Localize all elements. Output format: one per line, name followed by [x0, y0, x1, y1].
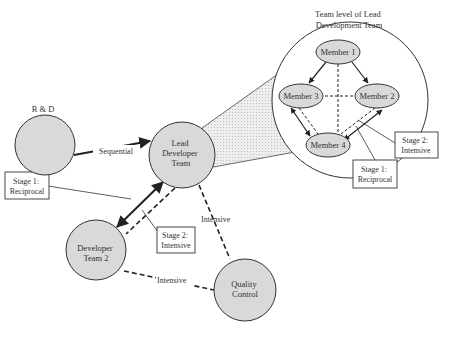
left-stage2-callout: Stage 2: Intensive — [142, 210, 195, 253]
lead-developer-team-node: Lead Developer Team — [149, 122, 215, 188]
left-stage1-callout: Stage 1: Reciprocal — [5, 172, 131, 199]
member-1-node: Member 1 — [316, 40, 360, 64]
svg-text:Stage 1: Reciprocal: Stage 1: Reciprocal — [358, 165, 393, 184]
svg-text:Member 1: Member 1 — [320, 47, 355, 57]
svg-text:Stage 2: Intensive: Stage 2: Intensive — [161, 231, 191, 250]
rd-node — [15, 115, 75, 175]
intensive-lead-qc-label: Intensive — [201, 215, 231, 224]
team-interaction-diagram: Team level of Lead Development Team Memb… — [0, 0, 450, 337]
svg-text:Stage 2: Intensive: Stage 2: Intensive — [401, 136, 431, 155]
sequential-label: Sequential — [99, 147, 134, 156]
svg-text:Member 4: Member 4 — [310, 140, 346, 150]
svg-text:Quality Control: Quality Control — [231, 279, 259, 299]
member-2-node: Member 2 — [355, 84, 399, 108]
member-4-node: Member 4 — [306, 133, 350, 157]
developer-team-2-node: Developer Team 2 — [66, 220, 126, 280]
svg-text:Stage 1: Reciprocal: Stage 1: Reciprocal — [10, 177, 45, 196]
svg-text:Member 2: Member 2 — [359, 91, 394, 101]
member-3-node: Member 3 — [279, 84, 323, 108]
quality-control-node: Quality Control — [214, 259, 276, 321]
team-level-title: Team level of Lead Development Team — [315, 9, 383, 30]
intensive-dev2-qc-label: Intensive — [157, 276, 187, 285]
svg-text:Member 3: Member 3 — [283, 91, 318, 101]
rd-label: R & D — [32, 104, 55, 114]
